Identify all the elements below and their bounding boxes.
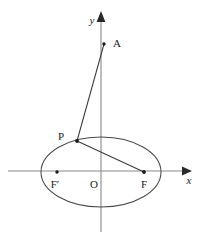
point-f-label: F: [141, 178, 147, 190]
point-p-label: P: [58, 130, 64, 142]
segment-a-p: [77, 44, 104, 141]
point-f-prime-label: F′: [51, 178, 60, 190]
origin-label: O: [90, 178, 98, 190]
point-a-label: A: [113, 37, 121, 49]
x-axis-label: x: [186, 174, 192, 186]
segment-p-f: [77, 141, 144, 172]
point-f-dot: [142, 170, 146, 174]
point-f-prime-dot: [55, 170, 58, 173]
point-p-dot: [75, 139, 79, 143]
y-axis-label: y: [89, 14, 95, 26]
ellipse-figure-canvas: A P F′ F O x y: [0, 0, 203, 243]
ellipse-diagram: A P F′ F O x y: [0, 0, 203, 243]
y-axis-arrowhead-icon: [97, 11, 106, 22]
point-a-dot: [102, 42, 105, 45]
